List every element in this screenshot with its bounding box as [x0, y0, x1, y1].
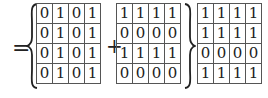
cell: 0 [246, 44, 262, 64]
cell: 1 [117, 4, 133, 24]
cell: 1 [53, 24, 69, 44]
right-brace-icon [184, 3, 196, 89]
cell: 1 [246, 24, 262, 44]
cell: 1 [198, 4, 214, 24]
cell: 0 [214, 44, 230, 64]
cell: 1 [117, 44, 133, 64]
cell: 0 [69, 44, 85, 64]
cell: 1 [230, 4, 246, 24]
cell: 0 [165, 24, 181, 44]
cell: 0 [149, 24, 165, 44]
cell: 0 [69, 4, 85, 24]
cell: 0 [117, 64, 133, 84]
cell: 1 [165, 44, 181, 64]
matrix-result: 1111 1111 0000 1111 [197, 3, 262, 84]
cell: 1 [198, 64, 214, 84]
cell: 0 [117, 24, 133, 44]
cell: 0 [133, 64, 149, 84]
matrix-b: 1111 0000 1111 0000 [116, 3, 181, 84]
cell: 0 [133, 24, 149, 44]
cell: 0 [198, 44, 214, 64]
cell: 1 [214, 4, 230, 24]
matrix-a: 0101 0101 0101 0101 [36, 3, 101, 84]
cell: 0 [37, 24, 53, 44]
cell: 1 [85, 64, 101, 84]
cell: 1 [165, 4, 181, 24]
cell: 1 [133, 4, 149, 24]
cell: 0 [37, 4, 53, 24]
cell: 1 [85, 44, 101, 64]
cell: 1 [214, 64, 230, 84]
cell: 0 [149, 64, 165, 84]
cell: 1 [149, 4, 165, 24]
cell: 1 [53, 4, 69, 24]
cell: 1 [246, 64, 262, 84]
cell: 0 [69, 24, 85, 44]
cell: 1 [133, 44, 149, 64]
cell: 0 [37, 64, 53, 84]
cell: 0 [165, 64, 181, 84]
cell: 1 [198, 24, 214, 44]
cell: 1 [246, 4, 262, 24]
cell: 1 [53, 44, 69, 64]
cell: 0 [37, 44, 53, 64]
cell: 1 [85, 24, 101, 44]
cell: 0 [69, 64, 85, 84]
cell: 1 [230, 24, 246, 44]
cell: 1 [214, 24, 230, 44]
cell: 0 [230, 44, 246, 64]
cell: 1 [230, 64, 246, 84]
cell: 1 [149, 44, 165, 64]
cell: 1 [85, 4, 101, 24]
cell: 1 [53, 64, 69, 84]
